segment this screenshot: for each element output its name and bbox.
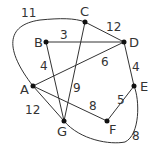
weight-a-g: 12 <box>25 103 40 117</box>
weight-b-d: 3 <box>60 28 68 42</box>
vertex-a <box>31 84 36 89</box>
vertex-d <box>122 40 127 45</box>
weight-a-d: 6 <box>101 55 109 69</box>
weight-b-g: 4 <box>40 59 48 73</box>
vertex-label-e: E <box>140 79 148 94</box>
vertex-label-f: F <box>109 122 116 137</box>
vertex-e <box>132 84 137 89</box>
weighted-graph-diagram: A B C D E F G 11 3 12 4 6 9 12 8 4 5 8 <box>0 0 155 148</box>
weight-d-e: 4 <box>132 60 140 74</box>
vertex-label-d: D <box>129 35 139 50</box>
weight-g-e: 8 <box>132 129 140 143</box>
vertex-label-g: G <box>57 124 67 139</box>
weight-e-f: 5 <box>117 93 125 107</box>
vertex-label-c: C <box>80 4 89 19</box>
weight-a-c: 11 <box>21 6 36 20</box>
vertex-c <box>83 20 88 25</box>
edge-b-g <box>46 42 64 121</box>
edge-a-c <box>13 19 85 86</box>
vertex-label-a: A <box>20 82 29 97</box>
weight-c-g: 9 <box>73 81 81 95</box>
vertex-label-b: B <box>34 35 43 50</box>
vertex-g <box>62 119 67 124</box>
vertex-b <box>44 40 49 45</box>
weight-c-d: 12 <box>106 20 121 34</box>
weight-a-f: 8 <box>89 99 97 113</box>
